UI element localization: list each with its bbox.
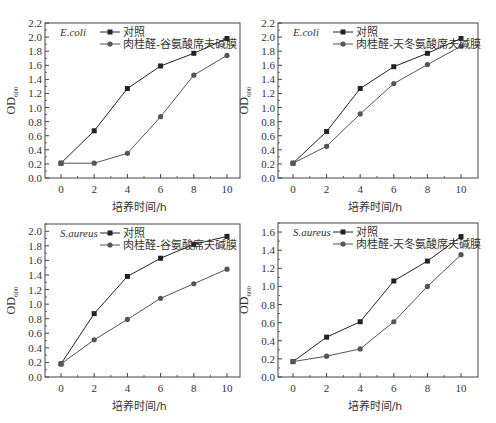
- data-point: [58, 361, 63, 366]
- series-film: [58, 53, 229, 166]
- y-axis-label: OD600: [237, 86, 253, 114]
- data-point: [125, 151, 130, 156]
- y-tick-label: 1.4: [261, 73, 275, 85]
- y-tick-label: 0.6: [28, 130, 42, 142]
- data-point: [125, 317, 130, 322]
- x-axis: 0246810: [58, 373, 233, 394]
- data-point: [425, 51, 430, 56]
- data-point: [391, 64, 396, 69]
- data-point: [191, 51, 196, 56]
- data-point: [158, 256, 163, 261]
- y-tick-label: 2.0: [28, 31, 42, 43]
- y-tick-label: 1.2: [28, 87, 42, 99]
- series-control: [291, 36, 464, 166]
- y-tick-label: 0.0: [261, 371, 275, 383]
- series-film: [290, 252, 463, 364]
- x-tick-label: 2: [91, 183, 97, 195]
- data-point: [324, 354, 329, 359]
- data-point: [158, 63, 163, 68]
- legend-item: 肉桂醛-天冬氨酸席夫碱膜: [333, 37, 481, 51]
- data-point: [425, 259, 430, 264]
- data-point: [224, 267, 229, 272]
- data-point: [290, 359, 295, 364]
- x-tick-label: 4: [125, 382, 131, 394]
- data-point: [324, 335, 329, 340]
- y-tick-label: 1.0: [261, 280, 275, 292]
- x-tick-label: 10: [456, 382, 468, 394]
- data-point: [358, 319, 363, 324]
- y-axis-label: OD600: [237, 286, 253, 314]
- x-tick-label: 6: [158, 183, 164, 195]
- y-tick-label: 1.4: [28, 73, 42, 85]
- legend-item: 对照: [100, 226, 145, 240]
- y-axis: 0.00.20.40.60.81.01.21.41.61.82.0: [28, 224, 49, 383]
- y-tick-label: 1.4: [28, 269, 42, 281]
- x-tick-label: 2: [324, 183, 330, 195]
- x-axis: 0246810: [290, 174, 467, 195]
- y-tick-label: 0.6: [28, 327, 42, 339]
- data-point: [425, 284, 430, 289]
- data-point: [358, 111, 363, 116]
- data-point: [458, 252, 463, 257]
- x-tick-label: 6: [158, 382, 164, 394]
- y-tick-label: 0.4: [261, 335, 275, 347]
- data-point: [58, 161, 63, 166]
- x-tick-label: 8: [191, 183, 197, 195]
- y-tick-label: 0.8: [28, 116, 42, 128]
- legend-label: 对照: [123, 226, 145, 240]
- x-tick-label: 2: [91, 382, 97, 394]
- legend-label: 对照: [356, 225, 378, 239]
- y-tick-label: 1.6: [28, 254, 42, 266]
- data-point: [324, 144, 329, 149]
- y-axis-label: OD600: [4, 86, 20, 114]
- x-axis-label: 培养时间/h: [348, 399, 403, 413]
- x-tick-label: 4: [357, 382, 363, 394]
- x-tick-label: 8: [191, 382, 197, 394]
- data-point: [391, 319, 396, 324]
- y-tick-label: 1.6: [261, 59, 275, 71]
- legend-label: 对照: [123, 25, 145, 39]
- data-point: [158, 114, 163, 119]
- series-control: [291, 234, 464, 364]
- legend-label: 肉桂醛-谷氨酸席夫碱膜: [123, 37, 237, 51]
- x-tick-label: 6: [391, 382, 397, 394]
- x-tick-label: 0: [290, 382, 296, 394]
- legend-label: 对照: [356, 25, 378, 39]
- x-axis-label: 培养时间/h: [112, 399, 167, 413]
- y-tick-label: 2.0: [28, 225, 42, 237]
- data-point: [158, 296, 163, 301]
- y-tick-label: 1.8: [261, 45, 275, 57]
- y-axis: 0.00.20.40.60.81.01.21.41.61.82.02.2: [261, 17, 282, 184]
- series-film: [58, 267, 229, 367]
- chart-ecoli-asparagine: 0.00.20.40.60.81.01.21.41.61.82.02.20246…: [233, 0, 496, 212]
- organism-label: E.coli: [292, 26, 319, 38]
- y-tick-label: 0.0: [28, 172, 42, 184]
- y-tick-label: 2.2: [261, 17, 275, 29]
- series-control: [59, 36, 230, 166]
- legend: 对照肉桂醛-谷氨酸席夫碱膜: [100, 226, 237, 252]
- y-tick-label: 1.8: [28, 45, 42, 57]
- y-tick-label: 1.2: [261, 87, 275, 99]
- chart-ecoli-glutamine: 0.00.20.40.60.81.01.21.41.61.82.02.20246…: [0, 0, 248, 212]
- legend-item: 肉桂醛-谷氨酸席夫碱膜: [100, 238, 237, 252]
- data-point: [224, 53, 229, 58]
- y-tick-label: 1.4: [261, 244, 275, 256]
- data-point: [358, 86, 363, 91]
- y-tick-label: 1.0: [28, 298, 42, 310]
- data-point: [92, 311, 97, 316]
- y-tick-label: 0.2: [261, 353, 275, 365]
- legend: 对照肉桂醛-谷氨酸席夫碱膜: [100, 25, 237, 51]
- y-tick-label: 0.8: [28, 313, 42, 325]
- x-tick-label: 4: [125, 183, 131, 195]
- data-point: [391, 81, 396, 86]
- y-tick-label: 1.6: [261, 226, 275, 238]
- x-axis: 0246810: [58, 174, 233, 195]
- x-tick-label: 0: [290, 183, 296, 195]
- y-tick-label: 2.0: [261, 31, 275, 43]
- legend-item: 肉桂醛-谷氨酸席夫碱膜: [100, 37, 237, 51]
- x-tick-label: 8: [425, 382, 431, 394]
- y-tick-label: 0.2: [28, 356, 42, 368]
- data-point: [324, 129, 329, 134]
- x-tick-label: 10: [456, 183, 468, 195]
- data-point: [358, 346, 363, 351]
